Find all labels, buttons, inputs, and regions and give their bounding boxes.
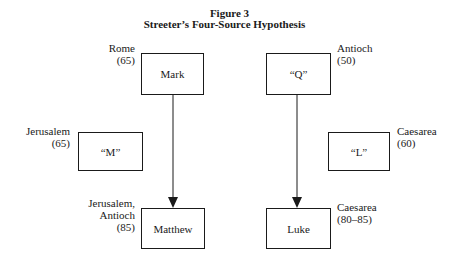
luke-place: Caesarea (80–85) xyxy=(337,201,377,225)
node-label: “Q” xyxy=(290,68,308,80)
node-luke: Luke xyxy=(266,208,331,249)
date-label: (85) xyxy=(80,221,135,233)
place-label: Rome xyxy=(85,42,135,54)
q-place: Antioch (50) xyxy=(337,42,372,66)
node-matthew: Matthew xyxy=(141,208,205,249)
date-label: (50) xyxy=(337,54,372,66)
date-label: (60) xyxy=(397,137,437,149)
node-label: “M” xyxy=(101,146,121,158)
arrowhead-icon xyxy=(292,197,302,208)
node-l: “L” xyxy=(328,132,390,171)
node-label: “L” xyxy=(351,146,367,158)
place-label: Caesarea xyxy=(337,201,377,213)
node-label: Mark xyxy=(161,68,185,80)
matthew-place: Jerusalem, Antioch (85) xyxy=(80,197,135,233)
node-m: “M” xyxy=(78,132,143,171)
place-label: Caesarea xyxy=(397,125,437,137)
arrowhead-icon xyxy=(168,197,178,208)
place-label: Antioch xyxy=(80,209,135,221)
node-label: Matthew xyxy=(153,223,192,235)
mark-place: Rome (65) xyxy=(85,42,135,66)
node-mark: Mark xyxy=(141,53,204,95)
node-label: Luke xyxy=(287,223,310,235)
place-label: Jerusalem, xyxy=(80,197,135,209)
date-label: (80–85) xyxy=(337,213,377,225)
m-place: Jerusalem (65) xyxy=(20,125,70,149)
node-q: “Q” xyxy=(266,53,331,95)
place-label: Jerusalem xyxy=(20,125,70,137)
date-label: (65) xyxy=(20,137,70,149)
l-place: Caesarea (60) xyxy=(397,125,437,149)
place-label: Antioch xyxy=(337,42,372,54)
date-label: (65) xyxy=(85,54,135,66)
